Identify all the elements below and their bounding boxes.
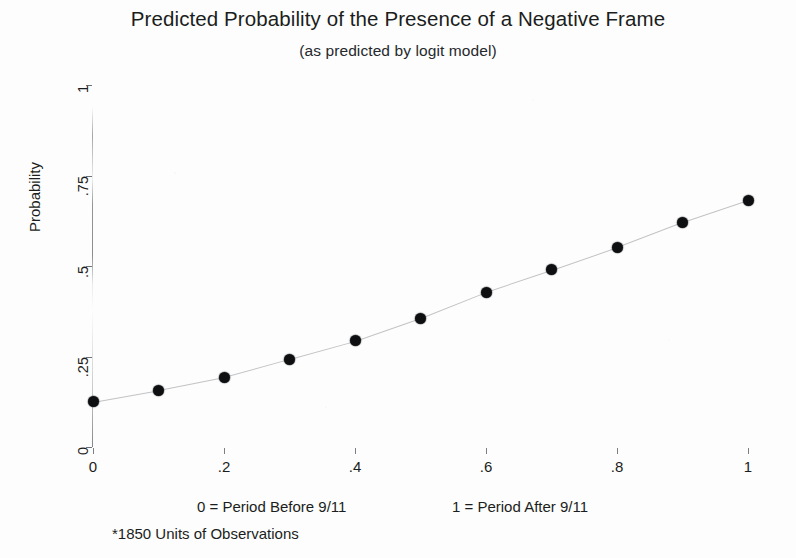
data-point (284, 354, 295, 365)
x-tick-mark (748, 448, 749, 454)
data-point (350, 335, 361, 346)
y-tick-label: .25 (75, 357, 91, 377)
plot-area: 0.25.5.751 0.2.4.6.81 (93, 85, 748, 447)
x-tick-label: .2 (218, 458, 231, 475)
fit-line-segment (158, 377, 224, 391)
x-tick-label: .4 (349, 458, 362, 475)
y-axis-line (92, 85, 93, 447)
x-tick-label: .8 (611, 458, 624, 475)
y-tick-label: 1 (75, 85, 91, 93)
data-point (481, 287, 492, 298)
x-tick-label: .6 (480, 458, 493, 475)
data-point (743, 195, 754, 206)
fit-line-segment (682, 200, 748, 223)
fit-line-segment (551, 247, 617, 271)
chart-title: Predicted Probability of the Presence of… (0, 7, 796, 31)
y-axis-label: Probability (26, 162, 43, 232)
note-after-period: 1 = Period After 9/11 (452, 498, 588, 515)
y-tick-label: .75 (75, 176, 91, 196)
data-point (88, 396, 99, 407)
chart-subtitle: (as predicted by logit model) (0, 42, 796, 60)
fit-line-segment (617, 222, 683, 248)
note-observations: *1850 Units of Observations (112, 525, 299, 542)
fit-line-segment (289, 341, 355, 360)
note-before-period: 0 = Period Before 9/11 (197, 498, 346, 515)
fit-line-segment (420, 292, 486, 319)
y-tick-label: .5 (75, 266, 91, 278)
x-tick-mark (486, 448, 487, 454)
data-point (677, 217, 688, 228)
x-tick-mark (355, 448, 356, 454)
data-point (546, 264, 557, 275)
x-tick-label: 1 (744, 458, 752, 475)
data-point (612, 242, 623, 253)
x-tick-mark (93, 448, 94, 454)
x-tick-mark (617, 448, 618, 454)
fit-line-segment (93, 390, 159, 403)
fit-line-segment (355, 318, 421, 342)
x-tick-mark (224, 448, 225, 454)
data-point (415, 313, 426, 324)
fit-line-segment (224, 359, 290, 378)
chart-figure: Predicted Probability of the Presence of… (0, 0, 796, 558)
x-tick-label: 0 (89, 458, 97, 475)
fit-line-segment (486, 270, 552, 293)
data-point (153, 385, 164, 396)
y-tick-label: 0 (75, 447, 91, 455)
data-point (219, 372, 230, 383)
